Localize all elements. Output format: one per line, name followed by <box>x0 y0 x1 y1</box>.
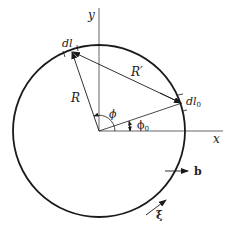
loop-diagram: y x dl dl0 R R′ ϕ ϕ0 b ξ <box>0 0 237 237</box>
xi-label: ξ <box>156 209 163 222</box>
phi-label: ϕ <box>109 108 117 121</box>
dl-tick-right <box>77 45 78 51</box>
x-axis-label: x <box>213 132 220 146</box>
dl-label: dl <box>62 37 73 50</box>
b-label: b <box>194 165 202 178</box>
R-prime-label: R′ <box>130 65 143 79</box>
phi0-label: ϕ0 <box>137 119 149 133</box>
R-label: R <box>70 91 80 105</box>
y-axis-label: y <box>87 8 95 22</box>
dl0-label: dl0 <box>186 95 201 109</box>
dl0-tick-top <box>178 94 183 95</box>
